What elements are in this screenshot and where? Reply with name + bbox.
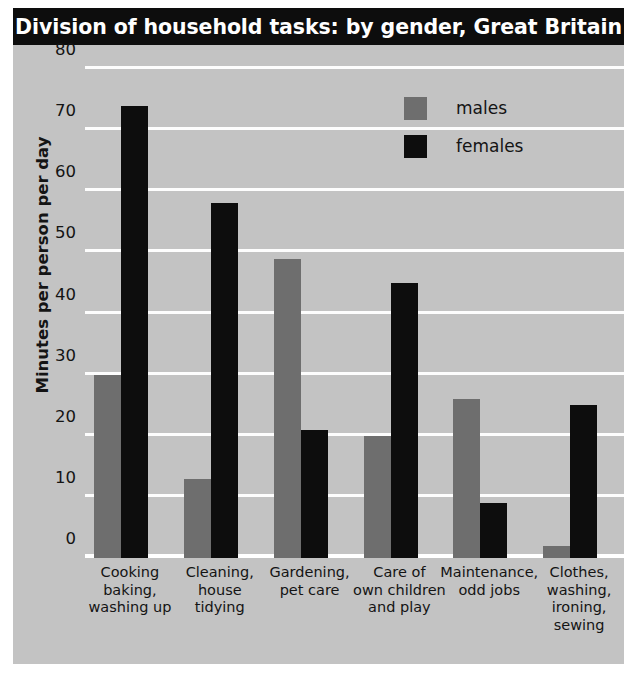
x-category-label: Cleaning,housetidying (169, 564, 271, 617)
bar-females[interactable] (570, 405, 597, 558)
bar-females[interactable] (301, 430, 328, 558)
bar-group (175, 69, 265, 558)
legend-swatch-males-icon (404, 97, 427, 120)
legend-label-females: females (456, 136, 523, 156)
legend-swatch-females-icon (404, 135, 427, 158)
y-tick-50: 50 (55, 223, 76, 242)
bar-males[interactable] (184, 479, 211, 558)
y-tick-40: 40 (55, 285, 76, 304)
chart-figure: Division of household tasks: by gender, … (0, 0, 639, 673)
title-bar: Division of household tasks: by gender, … (13, 8, 624, 45)
chart-canvas: Minutes per person per day 0102030405060… (13, 45, 624, 664)
y-tick-80: 80 (55, 40, 76, 59)
bar-group (265, 69, 355, 558)
bar-group (85, 69, 175, 558)
plot-area: 01020304050607080 (85, 69, 624, 558)
bar-females[interactable] (480, 503, 507, 558)
bar-males[interactable] (453, 399, 480, 558)
y-axis-title: Minutes per person per day (33, 164, 52, 394)
bar-males[interactable] (364, 436, 391, 558)
bar-group (534, 69, 624, 558)
page-title: Division of household tasks: by gender, … (15, 15, 622, 39)
legend-item-males: males (404, 89, 523, 127)
legend-label-males: males (456, 98, 507, 118)
bar-males[interactable] (94, 375, 121, 558)
y-tick-0: 0 (66, 529, 77, 548)
x-category-label: Clothes,washing,ironing,sewing (528, 564, 630, 634)
bar-females[interactable] (121, 106, 148, 558)
y-tick-30: 30 (55, 346, 76, 365)
y-tick-20: 20 (55, 407, 76, 426)
x-axis-category-labels: Cookingbaking,washing upCleaning,houseti… (85, 564, 624, 664)
bar-series-container (85, 69, 624, 558)
bar-females[interactable] (211, 203, 238, 558)
bar-males[interactable] (274, 259, 301, 559)
bar-females[interactable] (391, 283, 418, 558)
y-tick-60: 60 (55, 162, 76, 181)
y-tick-70: 70 (55, 101, 76, 120)
x-category-label: Cookingbaking,washing up (79, 564, 181, 617)
x-category-label: Maintenance,odd jobs (438, 564, 540, 599)
bar-males[interactable] (543, 546, 570, 558)
x-category-label: Gardening,pet care (259, 564, 361, 599)
x-category-label: Care ofown childrenand play (349, 564, 451, 617)
legend-item-females: females (404, 127, 523, 165)
legend: males females (404, 89, 523, 165)
y-tick-10: 10 (55, 468, 76, 487)
